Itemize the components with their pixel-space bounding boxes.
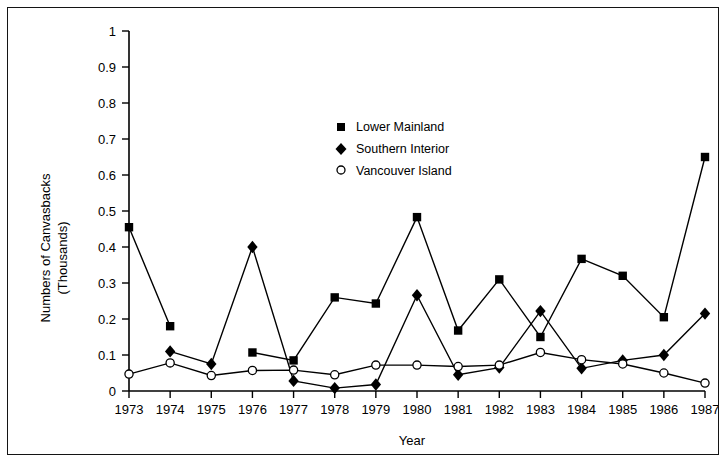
data-series-layer bbox=[125, 153, 710, 395]
data-point-filled-square bbox=[125, 223, 133, 231]
y-tick-08: 0.8 bbox=[98, 96, 129, 111]
data-point-open-circle bbox=[660, 369, 668, 377]
y-tick-label: 0.8 bbox=[98, 96, 116, 111]
data-point-filled-square bbox=[495, 275, 503, 283]
data-point-filled-diamond bbox=[165, 345, 175, 357]
x-tick-label: 1981 bbox=[444, 402, 473, 417]
data-point-open-circle bbox=[619, 360, 627, 368]
data-point-open-circle bbox=[372, 361, 380, 369]
data-point-open-circle bbox=[536, 348, 544, 356]
data-point-filled-square bbox=[289, 356, 297, 364]
data-point-open-circle bbox=[454, 362, 462, 370]
data-point-filled-square bbox=[619, 272, 627, 280]
data-point-filled-square bbox=[536, 333, 544, 341]
x-tick-label: 1986 bbox=[649, 402, 678, 417]
y-axis-ticks: 1 0.9 0.8 0.7 0.6 bbox=[98, 24, 129, 399]
y-tick-04: 0.4 bbox=[98, 240, 129, 255]
data-point-filled-square bbox=[331, 293, 339, 301]
y-axis-title-line2: (Thousands) bbox=[55, 222, 70, 295]
data-point-open-circle bbox=[495, 361, 503, 369]
legend-item-vancouver-island: Vancouver Island bbox=[337, 164, 452, 178]
y-tick-label: 0.2 bbox=[98, 312, 116, 327]
y-tick-label: 0.3 bbox=[98, 276, 116, 291]
x-tick-label: 1979 bbox=[361, 402, 390, 417]
data-point-filled-diamond bbox=[288, 375, 298, 387]
x-tick-label: 1978 bbox=[320, 402, 349, 417]
data-point-open-circle bbox=[331, 371, 339, 379]
open-circle-icon bbox=[337, 166, 345, 174]
y-tick-06: 0.6 bbox=[98, 168, 129, 183]
y-tick-label: 0.5 bbox=[98, 204, 116, 219]
data-point-filled-diamond bbox=[206, 358, 216, 370]
x-tick-label: 1983 bbox=[526, 402, 555, 417]
canvasbacks-line-chart: Numbers of Canvasbacks (Thousands) Year … bbox=[8, 8, 718, 454]
y-tick-label: 0.1 bbox=[98, 348, 116, 363]
y-tick-02: 0.2 bbox=[98, 312, 129, 327]
data-point-open-circle bbox=[207, 371, 215, 379]
legend-label: Southern Interior bbox=[356, 142, 449, 156]
y-axis-title-line1: Numbers of Canvasbacks bbox=[38, 173, 53, 322]
data-point-open-circle bbox=[413, 361, 421, 369]
chart-frame: Numbers of Canvasbacks (Thousands) Year … bbox=[7, 7, 719, 455]
data-point-filled-diamond bbox=[330, 382, 340, 394]
y-tick-09: 0.9 bbox=[98, 60, 129, 75]
x-tick-label: 1977 bbox=[279, 402, 308, 417]
x-tick-label: 1985 bbox=[608, 402, 637, 417]
x-tick-label: 1982 bbox=[485, 402, 514, 417]
data-point-filled-square bbox=[248, 348, 256, 356]
y-tick-0: 0 bbox=[109, 384, 129, 399]
y-tick-label: 0.9 bbox=[98, 60, 116, 75]
data-point-open-circle bbox=[166, 359, 174, 367]
x-tick-label: 1975 bbox=[197, 402, 226, 417]
y-tick-07: 0.7 bbox=[98, 132, 129, 147]
x-tick-label: 1987 bbox=[691, 402, 718, 417]
y-tick-label: 0 bbox=[109, 384, 116, 399]
series-line bbox=[129, 157, 705, 360]
data-point-open-circle bbox=[289, 366, 297, 374]
data-point-filled-square bbox=[660, 313, 668, 321]
x-tick-label: 1974 bbox=[156, 402, 185, 417]
axes bbox=[129, 31, 705, 391]
data-point-filled-diamond bbox=[371, 378, 381, 390]
y-tick-label: 0.7 bbox=[98, 132, 116, 147]
data-point-filled-square bbox=[372, 299, 380, 307]
legend-label: Vancouver Island bbox=[356, 164, 452, 178]
y-tick-05: 0.5 bbox=[98, 204, 129, 219]
filled-diamond-icon bbox=[336, 143, 347, 155]
data-point-open-circle bbox=[248, 366, 256, 374]
data-point-open-circle bbox=[701, 379, 709, 387]
x-tick-label: 1984 bbox=[567, 402, 596, 417]
series-lower-mainland bbox=[125, 153, 709, 365]
y-tick-01: 0.1 bbox=[98, 348, 129, 363]
x-tick-label: 1980 bbox=[403, 402, 432, 417]
legend-item-southern-interior: Southern Interior bbox=[336, 142, 450, 156]
chart-page: Numbers of Canvasbacks (Thousands) Year … bbox=[0, 0, 728, 464]
x-tick-label: 1973 bbox=[115, 402, 144, 417]
data-point-open-circle bbox=[125, 370, 133, 378]
filled-square-icon bbox=[337, 123, 345, 131]
data-point-filled-square bbox=[413, 213, 421, 221]
y-tick-label: 1 bbox=[109, 24, 116, 39]
data-point-filled-diamond bbox=[247, 241, 257, 253]
y-tick-label: 0.6 bbox=[98, 168, 116, 183]
data-point-filled-square bbox=[166, 322, 174, 330]
data-point-filled-diamond bbox=[412, 289, 422, 301]
y-tick-03: 0.3 bbox=[98, 276, 129, 291]
x-axis-ticks: 1973197419751976197719781979198019811982… bbox=[115, 391, 718, 417]
x-axis-title: Year bbox=[399, 433, 426, 448]
legend-label: Lower Mainland bbox=[356, 120, 444, 134]
chart-legend: Lower Mainland Southern Interior Vancouv… bbox=[336, 120, 452, 178]
data-point-open-circle bbox=[577, 356, 585, 364]
y-tick-1: 1 bbox=[109, 24, 129, 39]
data-point-filled-square bbox=[454, 326, 462, 334]
legend-item-lower-mainland: Lower Mainland bbox=[337, 120, 444, 134]
data-point-filled-square bbox=[577, 255, 585, 263]
y-tick-label: 0.4 bbox=[98, 240, 116, 255]
x-tick-label: 1976 bbox=[238, 402, 267, 417]
data-point-filled-square bbox=[701, 153, 709, 161]
